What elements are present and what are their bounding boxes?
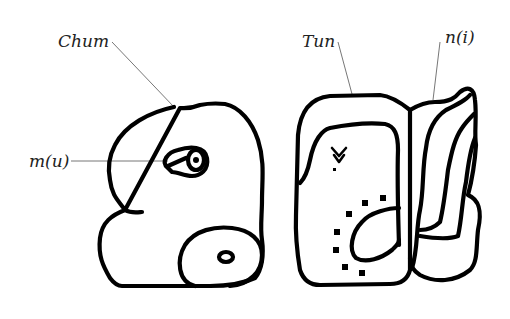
tun-inner-frame [300,123,399,245]
leader-tun [338,42,352,94]
chum-lower-dot [219,252,233,262]
label-mu: m(u) [29,151,69,171]
ni-band-1 [412,95,470,268]
leader-ni [433,42,440,100]
tun-dotted-halo [333,195,386,276]
label-tun: Tun [302,31,335,51]
mu-sign-stroke [168,158,186,166]
chum-glyph [100,104,263,286]
label-chum: Chum [58,31,109,51]
mu-sign-dot [193,157,199,163]
tun-v-mark [332,148,346,162]
ni-glyph [410,89,480,280]
leader-chum [112,42,174,107]
glyph-diagram: Chum m(u) Tun n(i) [0,0,510,319]
tun-dot [333,168,336,171]
label-ni: n(i) [445,27,475,47]
tun-glyph [296,95,410,285]
tun-oval [352,208,399,260]
